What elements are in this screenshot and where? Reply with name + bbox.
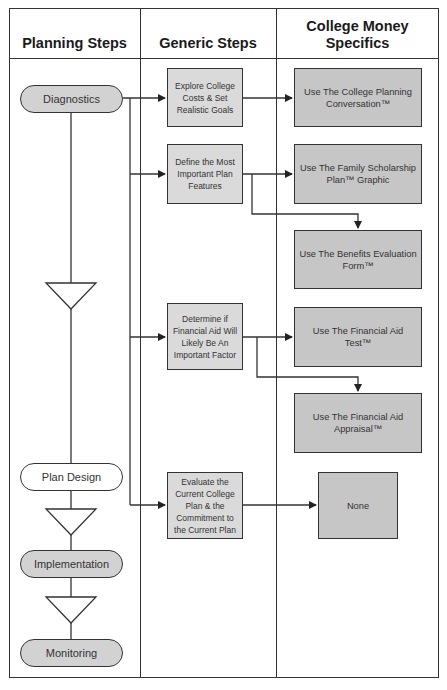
specific-family-scholarship-plan: Use The Family Scholarship Plan™ Graphic bbox=[294, 144, 422, 204]
generic-step-explore-costs: Explore College Costs & Set Realistic Go… bbox=[167, 68, 243, 127]
planning-step-implementation: Implementation bbox=[20, 550, 123, 578]
planning-step-monitoring: Monitoring bbox=[20, 639, 123, 667]
planning-step-plan-design: Plan Design bbox=[20, 463, 123, 491]
planning-step-diagnostics: Diagnostics bbox=[20, 85, 123, 113]
specific-financial-aid-test: Use The Financial Aid Test™ bbox=[294, 307, 422, 367]
specific-financial-aid-appraisal: Use The Financial Aid Appraisal™ bbox=[294, 393, 422, 453]
specific-benefits-evaluation-form: Use The Benefits Evaluation Form™ bbox=[294, 230, 422, 289]
generic-step-define-features: Define the Most Important Plan Features bbox=[167, 144, 243, 204]
specific-college-planning-conversation: Use The College Planning Conversation™ bbox=[294, 68, 422, 127]
generic-step-financial-aid: Determine if Financial Aid Will Likely B… bbox=[167, 303, 243, 370]
generic-step-evaluate-plan: Evaluate the Current College Plan & the … bbox=[167, 472, 243, 539]
specific-none: None bbox=[318, 472, 398, 539]
